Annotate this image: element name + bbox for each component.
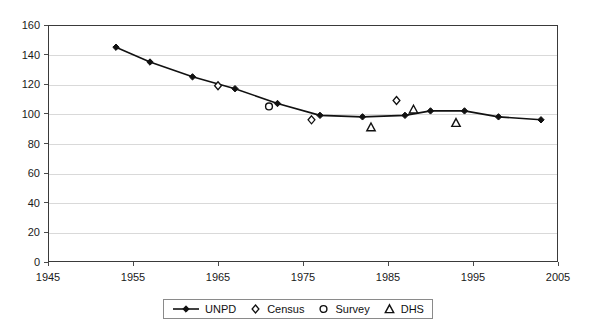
legend-item-census: Census bbox=[249, 303, 304, 315]
legend-item-survey: Survey bbox=[317, 303, 369, 315]
plot-area bbox=[48, 25, 558, 262]
chart-legend: UNPDCensusSurveyDHS bbox=[163, 299, 433, 319]
chart-container: 0204060801001201401601945195519651975198… bbox=[0, 0, 601, 327]
y-gridline bbox=[49, 144, 557, 145]
legend-item-label: DHS bbox=[401, 303, 424, 315]
y-gridline bbox=[49, 55, 557, 56]
y-tick-mark bbox=[44, 54, 48, 55]
y-tick-mark bbox=[44, 232, 48, 233]
x-axis-tick-label: 2005 bbox=[546, 271, 570, 283]
y-axis-tick-label: 60 bbox=[0, 167, 40, 179]
y-tick-mark bbox=[44, 202, 48, 203]
x-axis-tick-label: 1965 bbox=[206, 271, 230, 283]
y-tick-mark bbox=[44, 25, 48, 26]
y-tick-mark bbox=[44, 84, 48, 85]
y-tick-mark bbox=[44, 113, 48, 114]
legend-item-label: Survey bbox=[335, 303, 369, 315]
y-axis-tick-label: 160 bbox=[0, 19, 40, 31]
legend-item-label: Census bbox=[267, 303, 304, 315]
y-axis-tick-label: 80 bbox=[0, 138, 40, 150]
legend-item-dhs: DHS bbox=[383, 303, 424, 315]
y-tick-mark bbox=[44, 173, 48, 174]
x-tick-mark bbox=[303, 262, 304, 266]
x-axis-tick-label: 1945 bbox=[36, 271, 60, 283]
y-tick-mark bbox=[44, 143, 48, 144]
x-tick-mark bbox=[558, 262, 559, 266]
x-axis-tick-label: 1955 bbox=[121, 271, 145, 283]
y-axis-tick-label: 40 bbox=[0, 197, 40, 209]
y-axis-tick-label: 100 bbox=[0, 108, 40, 120]
y-gridline bbox=[49, 174, 557, 175]
x-axis-tick-label: 1975 bbox=[291, 271, 315, 283]
open-circle-icon bbox=[317, 303, 330, 315]
y-gridline bbox=[49, 233, 557, 234]
x-axis-tick-label: 1995 bbox=[461, 271, 485, 283]
x-tick-mark bbox=[133, 262, 134, 266]
y-gridline bbox=[49, 85, 557, 86]
x-axis-tick-label: 1985 bbox=[376, 271, 400, 283]
y-gridline bbox=[49, 114, 557, 115]
legend-item-label: UNPD bbox=[205, 303, 236, 315]
open-triangle-icon bbox=[383, 303, 396, 315]
y-axis-tick-label: 140 bbox=[0, 49, 40, 61]
x-tick-mark bbox=[473, 262, 474, 266]
open-diamond-icon bbox=[249, 303, 262, 315]
x-tick-mark bbox=[388, 262, 389, 266]
y-axis-tick-label: 20 bbox=[0, 226, 40, 238]
y-gridline bbox=[49, 203, 557, 204]
x-tick-mark bbox=[218, 262, 219, 266]
y-axis-tick-label: 0 bbox=[0, 256, 40, 268]
legend-item-unpd: UNPD bbox=[172, 303, 236, 315]
x-tick-mark bbox=[48, 262, 49, 266]
y-axis-tick-label: 120 bbox=[0, 78, 40, 90]
line-diamond-icon bbox=[172, 303, 200, 315]
